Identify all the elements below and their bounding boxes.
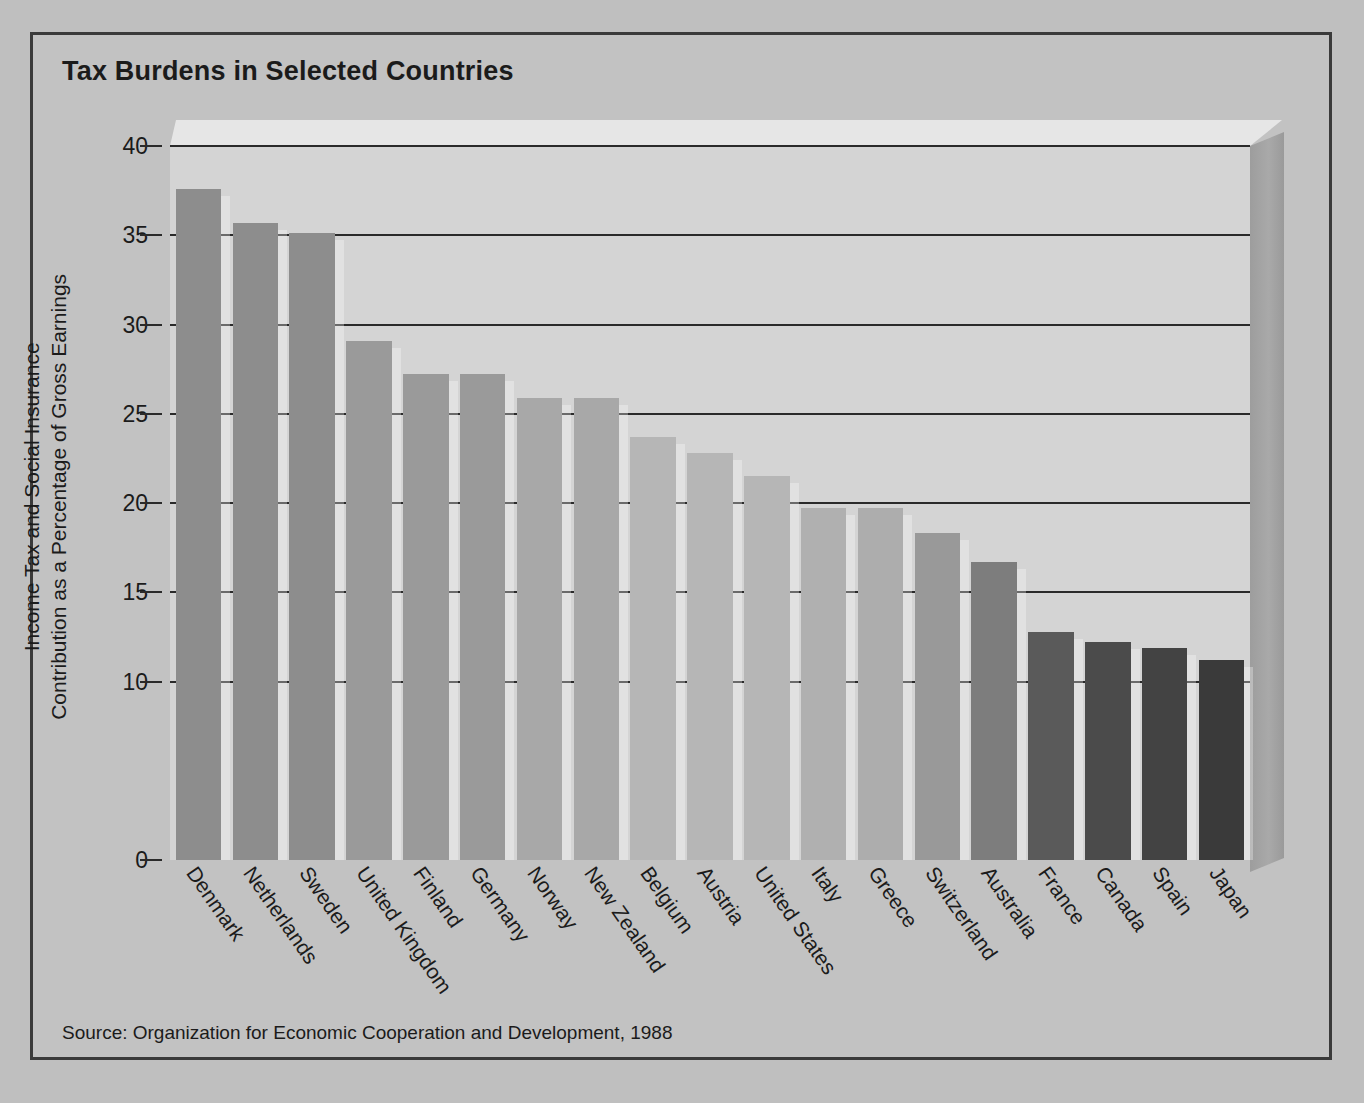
bar-face (460, 374, 505, 860)
bar-face (801, 508, 846, 860)
bar-face (176, 189, 221, 860)
bar[interactable] (517, 146, 562, 860)
bar-face (517, 398, 562, 860)
y-axis-tick-mark (140, 145, 162, 147)
bar[interactable] (630, 146, 675, 860)
bar-side-face (790, 483, 799, 860)
y-axis-tick-mark (140, 234, 162, 236)
bar[interactable] (403, 146, 448, 860)
bar-side-face (1131, 649, 1140, 860)
bar[interactable] (460, 146, 505, 860)
bar-side-face (1074, 639, 1083, 860)
bar-face (1199, 660, 1244, 860)
bar[interactable] (687, 146, 732, 860)
bar[interactable] (1199, 146, 1244, 860)
y-axis-tick-mark (140, 859, 162, 861)
bar-side-face (619, 405, 628, 860)
bar-face (346, 341, 391, 860)
bar-side-face (278, 230, 287, 860)
bar-face (915, 533, 960, 860)
x-axis-tick-label: Spain (1147, 862, 1197, 920)
bar[interactable] (574, 146, 619, 860)
bar-side-face (733, 460, 742, 860)
x-axis-tick-label: Japan (1204, 862, 1256, 923)
bar-side-face (562, 405, 571, 860)
plot-top-wall (170, 120, 1282, 146)
bar-side-face (392, 348, 401, 860)
bar-series (170, 146, 1250, 860)
bar-side-face (1017, 569, 1026, 860)
bar-side-face (676, 444, 685, 860)
x-axis-tick-label: Sweden (295, 862, 358, 938)
x-axis-tick-label: Greece (863, 862, 922, 932)
bar[interactable] (233, 146, 278, 860)
x-axis-tick-label: Belgium (636, 862, 699, 938)
bar-side-face (335, 240, 344, 860)
bar[interactable] (289, 146, 334, 860)
bar[interactable] (858, 146, 903, 860)
bar-face (574, 398, 619, 860)
bar-face (1085, 642, 1130, 860)
bar-face (1028, 632, 1073, 860)
source-note: Source: Organization for Economic Cooper… (62, 1022, 672, 1044)
bar-side-face (960, 540, 969, 860)
y-axis-title: Income Tax and Social Insurance Contribu… (19, 187, 73, 807)
x-axis-tick-label: Norway (522, 862, 582, 934)
x-axis-tick-labels: DenmarkNetherlandsSwedenUnited KingdomFi… (170, 862, 1270, 1012)
bar-side-face (903, 515, 912, 860)
y-axis-title-line-2: Contribution as a Percentage of Gross Ea… (46, 187, 73, 807)
bar-face (289, 233, 334, 860)
bar[interactable] (801, 146, 846, 860)
x-axis-tick-label: Canada (1090, 862, 1152, 936)
x-axis-tick-label: Finland (408, 862, 467, 932)
bar[interactable] (744, 146, 789, 860)
bar[interactable] (1142, 146, 1187, 860)
y-axis-tick-mark (140, 591, 162, 593)
y-axis-tick-mark (140, 681, 162, 683)
plot-area (170, 146, 1250, 860)
bar-face (403, 374, 448, 860)
bar-face (744, 476, 789, 860)
bar[interactable] (915, 146, 960, 860)
bar-face (1142, 648, 1187, 860)
bar[interactable] (346, 146, 391, 860)
y-axis-title-line-1: Income Tax and Social Insurance (19, 187, 46, 807)
bar-face (971, 562, 1016, 860)
source-divider (33, 1000, 1329, 1002)
y-axis-tick-mark (140, 502, 162, 504)
bar-face (630, 437, 675, 860)
bar-side-face (1187, 655, 1196, 860)
x-axis-tick-label: Italy (806, 862, 848, 907)
y-axis-tick-mark (140, 413, 162, 415)
bar-side-face (846, 515, 855, 860)
bar-side-face (449, 381, 458, 860)
bar[interactable] (1085, 146, 1130, 860)
bar-side-face (221, 196, 230, 860)
x-axis-tick-label: Austria (693, 862, 750, 929)
bar[interactable] (176, 146, 221, 860)
bar-face (233, 223, 278, 860)
bar[interactable] (1028, 146, 1073, 860)
bar-side-face (1244, 667, 1253, 860)
x-axis-tick-label: France (1034, 862, 1091, 929)
plot-right-wall (1250, 132, 1284, 886)
y-axis-tick-mark (140, 324, 162, 326)
bar-face (687, 453, 732, 860)
chart-page: Tax Burdens in Selected Countries Income… (0, 0, 1364, 1103)
page-title: Tax Burdens in Selected Countries (62, 56, 514, 87)
bar[interactable] (971, 146, 1016, 860)
bar-side-face (505, 381, 514, 860)
bar-face (858, 508, 903, 860)
